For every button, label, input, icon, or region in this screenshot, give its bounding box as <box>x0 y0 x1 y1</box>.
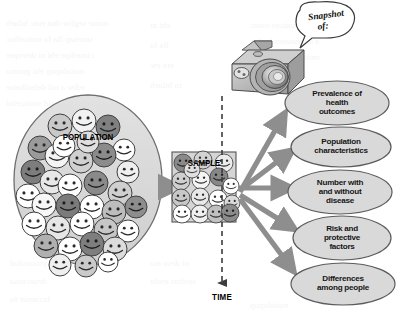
smiley-face <box>77 131 99 153</box>
fan-arrow-1 <box>240 120 281 192</box>
smiley-face <box>72 109 96 133</box>
population-group <box>14 95 162 277</box>
smiley-face <box>96 115 120 139</box>
smiley-face <box>75 255 97 277</box>
smiley-face <box>53 135 75 157</box>
snapshot-speech-bubble <box>296 2 355 48</box>
smiley-face <box>80 232 104 256</box>
smiley-face <box>22 212 46 236</box>
sample-group <box>172 151 240 223</box>
outcome-ellipses <box>285 81 395 305</box>
smiley-face <box>184 162 200 178</box>
smiley-face <box>223 178 239 194</box>
smiley-face <box>221 204 239 222</box>
fan-arrow-2 <box>240 155 286 190</box>
outcome-ellipse-number-with-and-without-disease[interactable] <box>288 170 392 214</box>
camera-icon <box>232 41 304 95</box>
smiley-face <box>125 196 147 218</box>
smiley-face <box>172 189 190 207</box>
outcome-ellipse-population-characteristics[interactable] <box>291 127 391 167</box>
smiley-face <box>34 234 58 258</box>
diagram-graphics <box>0 0 398 314</box>
smiley-face <box>49 254 71 276</box>
smiley-face <box>84 171 108 195</box>
smiley-face <box>191 188 209 206</box>
smiley-face <box>98 252 118 272</box>
diagram-canvas: POPULATION SAMPLE Snapshot of: TIME Prev… <box>0 0 398 314</box>
outcome-ellipse-prevalence-of-health-outcomes[interactable] <box>285 81 389 125</box>
smiley-face <box>113 139 135 161</box>
fan-arrows <box>238 120 289 265</box>
smiley-face <box>191 205 209 223</box>
smiley-face <box>173 205 191 223</box>
outcome-ellipse-risk-and-protective-factors[interactable] <box>293 216 391 260</box>
sample-faces <box>172 151 240 223</box>
smiley-face <box>48 114 72 138</box>
smiley-face <box>117 161 139 183</box>
outcome-ellipse-differences-among-people[interactable] <box>291 263 395 305</box>
